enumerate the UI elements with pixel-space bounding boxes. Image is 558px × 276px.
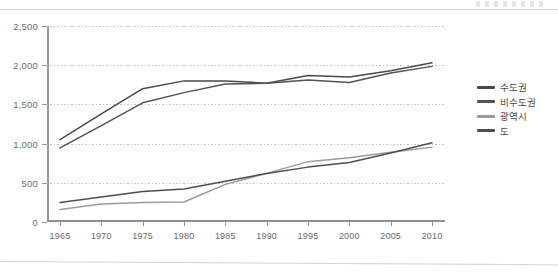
legend-item-2[interactable]: 비수도권 — [477, 95, 553, 110]
x-axis-label: 1965 — [50, 231, 71, 241]
page-header-smudge — [476, 1, 548, 7]
x-axis-label: 1990 — [256, 231, 277, 241]
legend-item-label: 광역시 — [500, 109, 527, 123]
series-line — [60, 63, 432, 140]
legend-swatch-icon — [477, 129, 495, 132]
series-line — [60, 143, 432, 203]
chart-legend: 수도권비수도권광역시도 — [477, 80, 553, 138]
x-tick — [267, 222, 268, 226]
y-axis-label: 1,500 — [13, 99, 38, 110]
legend-swatch-icon — [477, 115, 495, 118]
x-axis-label: 2005 — [380, 231, 401, 241]
legend-item-label: 비수도권 — [500, 95, 536, 109]
page-bottom-rule — [0, 261, 558, 265]
chart-page: 05001,0001,5002,0002,500 196519701975198… — [0, 0, 558, 276]
x-tick — [225, 222, 226, 226]
x-axis-label: 1975 — [132, 231, 153, 241]
y-axis-label: 2,000 — [13, 60, 38, 71]
x-tick — [143, 222, 144, 226]
legend-item-3[interactable]: 광역시 — [477, 109, 553, 124]
plot-area: 05001,0001,5002,0002,500 196519701975198… — [47, 26, 445, 222]
x-tick — [101, 222, 102, 226]
y-axis-label: 2,500 — [13, 21, 38, 32]
x-tick — [432, 222, 433, 226]
x-tick — [349, 222, 350, 226]
x-axis-label: 1995 — [298, 231, 319, 241]
x-axis-label: 2010 — [422, 231, 443, 241]
legend-item-4[interactable]: 도 — [477, 124, 553, 139]
y-axis-label: 0 — [33, 217, 38, 228]
legend-swatch-icon — [477, 100, 495, 103]
x-axis-label: 1980 — [174, 231, 195, 241]
x-axis-label: 2000 — [339, 231, 360, 241]
x-tick — [60, 222, 61, 226]
legend-item-1[interactable]: 수도권 — [477, 80, 553, 95]
x-axis-label: 1985 — [215, 231, 236, 241]
x-tick — [391, 222, 392, 226]
series-lines — [47, 26, 445, 222]
y-tick — [42, 222, 47, 223]
legend-item-label: 도 — [500, 124, 509, 138]
y-axis-label: 1,000 — [13, 138, 38, 149]
page-top-rule — [0, 9, 558, 10]
legend-swatch-icon — [477, 86, 495, 89]
y-axis-label: 500 — [22, 177, 38, 188]
x-tick — [184, 222, 185, 226]
x-axis-label: 1970 — [91, 231, 112, 241]
legend-item-label: 수도권 — [500, 80, 527, 94]
x-tick — [308, 222, 309, 226]
series-line — [60, 66, 432, 148]
